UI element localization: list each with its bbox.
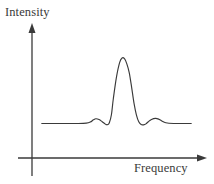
intensity-axis-label: Intensity	[5, 5, 50, 20]
y-axis-arrow-icon	[29, 23, 36, 33]
x-axis-arrow-icon	[197, 155, 207, 162]
spectrum-figure: Intensity Frequency	[0, 0, 214, 184]
plot-canvas	[0, 0, 214, 184]
intensity-trace	[42, 58, 191, 125]
frequency-axis-label: Frequency	[134, 161, 188, 176]
